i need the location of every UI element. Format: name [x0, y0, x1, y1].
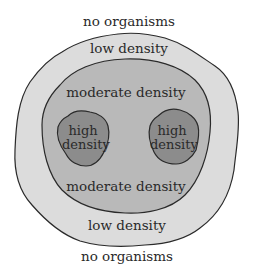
- label-high-density-right: high density: [150, 124, 194, 152]
- label-high-density-left: high density: [62, 124, 104, 152]
- label-low-density-top: low density: [0, 42, 258, 56]
- label-no-organisms-top: no organisms: [0, 15, 258, 29]
- label-high-left-line1: high: [62, 124, 104, 138]
- label-high-right-line1: high: [150, 124, 194, 138]
- label-no-organisms-bottom: no organisms: [0, 250, 254, 264]
- label-moderate-density-top: moderate density: [0, 86, 252, 100]
- label-high-right-line2: density: [150, 138, 194, 152]
- label-high-left-line2: density: [62, 138, 104, 152]
- label-low-density-bottom: low density: [0, 219, 254, 233]
- label-moderate-density-bottom: moderate density: [0, 180, 252, 194]
